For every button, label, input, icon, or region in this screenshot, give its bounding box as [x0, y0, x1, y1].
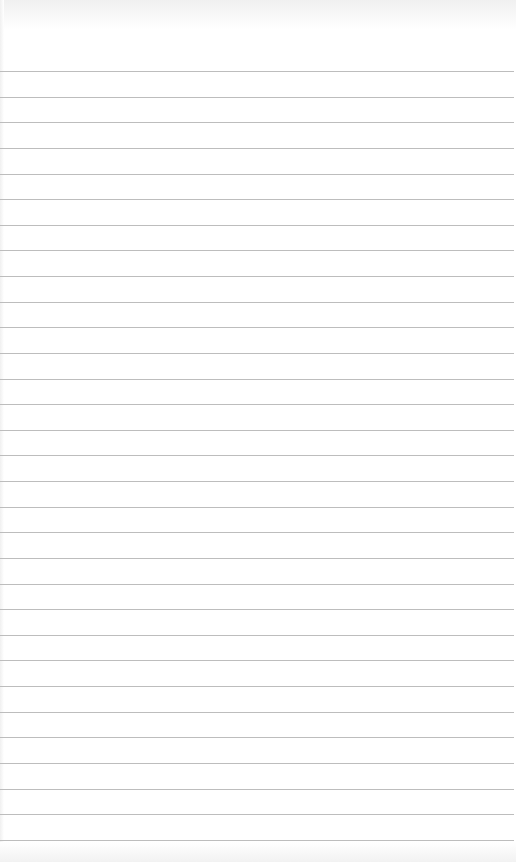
ruled-line — [0, 199, 514, 200]
ruled-line — [0, 97, 514, 98]
ruled-line — [0, 814, 514, 815]
ruled-line — [0, 302, 514, 303]
ruled-line — [0, 455, 514, 456]
paper-bottom-edge — [0, 842, 516, 862]
ruled-line — [0, 558, 514, 559]
ruled-line — [0, 481, 514, 482]
ruled-line — [0, 430, 514, 431]
ruled-line — [0, 174, 514, 175]
ruled-line — [0, 840, 514, 841]
ruled-line — [0, 276, 514, 277]
ruled-line — [0, 71, 514, 72]
ruled-line — [0, 122, 514, 123]
ruled-line — [0, 225, 514, 226]
paper-left-edge — [0, 0, 4, 862]
paper-top-edge — [0, 0, 516, 30]
ruled-line — [0, 584, 514, 585]
ruled-line — [0, 327, 514, 328]
ruled-line — [0, 353, 514, 354]
ruled-line — [0, 379, 514, 380]
ruled-line — [0, 712, 514, 713]
ruled-line — [0, 507, 514, 508]
ruled-line — [0, 763, 514, 764]
ruled-line — [0, 686, 514, 687]
ruled-line — [0, 609, 514, 610]
ruled-line — [0, 250, 514, 251]
ruled-line — [0, 737, 514, 738]
ruled-line — [0, 404, 514, 405]
ruled-line — [0, 148, 514, 149]
ruled-line — [0, 635, 514, 636]
ruled-line — [0, 789, 514, 790]
ruled-line — [0, 532, 514, 533]
ruled-line — [0, 660, 514, 661]
